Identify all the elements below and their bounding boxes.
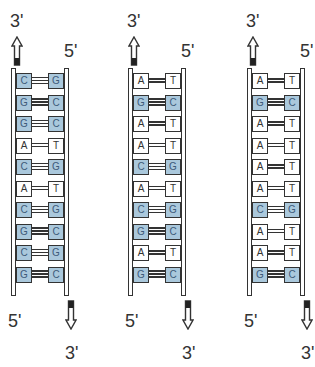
base-pair-row: GC — [16, 116, 64, 132]
triple-hydrogen-bond — [149, 206, 165, 214]
base-pair-row: GC — [133, 95, 181, 111]
base-pair-row: CG — [133, 159, 181, 175]
base-right: C — [48, 224, 64, 240]
base-left: C — [252, 202, 268, 218]
bottom-left-end-label: 5' — [244, 312, 257, 330]
base-pair-row: AT — [133, 245, 181, 261]
base-pair-row: AT — [252, 159, 300, 175]
double-hydrogen-bond — [268, 250, 284, 258]
base-right: T — [284, 159, 300, 175]
base-left: A — [252, 73, 268, 89]
base-left: C — [16, 202, 32, 218]
double-hydrogen-bond — [149, 143, 165, 151]
base-pair-row: CG — [16, 245, 64, 261]
double-hydrogen-bond — [268, 164, 284, 172]
triple-hydrogen-bond — [32, 77, 48, 85]
base-left: A — [252, 181, 268, 197]
base-pair-row: CG — [16, 202, 64, 218]
base-left: G — [16, 267, 32, 283]
base-pair-row: AT — [133, 181, 181, 197]
base-pairs: CGGCGCATCGATCGGCCGGC — [16, 73, 64, 288]
triple-hydrogen-bond — [32, 163, 48, 171]
base-pair-row: AT — [133, 73, 181, 89]
base-left: A — [252, 138, 268, 154]
base-right: C — [284, 267, 300, 283]
base-pair-row: AT — [252, 73, 300, 89]
triple-hydrogen-bond — [268, 98, 284, 106]
triple-hydrogen-bond — [268, 206, 284, 214]
base-pairs: ATGCATATATATCGATATGC — [252, 73, 300, 288]
triple-hydrogen-bond — [149, 227, 165, 235]
base-left: G — [133, 267, 149, 283]
base-left: A — [133, 116, 149, 132]
double-hydrogen-bond — [268, 143, 284, 151]
triple-hydrogen-bond — [149, 98, 165, 106]
base-left: A — [133, 73, 149, 89]
base-right: G — [165, 159, 181, 175]
down-arrow-icon — [65, 300, 77, 330]
base-pair-row: GC — [252, 267, 300, 283]
triple-hydrogen-bond — [268, 270, 284, 278]
base-right: T — [284, 224, 300, 240]
base-right: G — [48, 245, 64, 261]
base-left: C — [133, 202, 149, 218]
right-backbone — [64, 68, 69, 296]
base-right: T — [165, 138, 181, 154]
double-hydrogen-bond — [32, 143, 48, 151]
base-right: G — [48, 73, 64, 89]
base-left: A — [133, 245, 149, 261]
base-right: T — [165, 181, 181, 197]
base-right: T — [284, 138, 300, 154]
base-pair-row: GC — [252, 95, 300, 111]
base-right: T — [165, 116, 181, 132]
right-backbone — [181, 68, 186, 296]
double-hydrogen-bond — [149, 186, 165, 194]
base-left: A — [133, 138, 149, 154]
base-pair-row: GC — [133, 224, 181, 240]
top-left-end-label: 3' — [246, 12, 259, 30]
base-pair-row: AT — [133, 138, 181, 154]
base-right: C — [48, 116, 64, 132]
base-right: T — [284, 73, 300, 89]
base-right: C — [165, 224, 181, 240]
base-right: T — [165, 245, 181, 261]
base-left: G — [16, 95, 32, 111]
base-pair-row: CG — [16, 73, 64, 89]
top-right-end-label: 5' — [181, 42, 194, 60]
down-arrow-icon — [182, 300, 194, 330]
base-right: T — [48, 181, 64, 197]
base-left: C — [16, 159, 32, 175]
base-pair-row: AT — [252, 245, 300, 261]
base-pair-row: GC — [16, 224, 64, 240]
top-left-end-label: 3' — [10, 12, 23, 30]
base-pair-row: AT — [252, 116, 300, 132]
triple-hydrogen-bond — [149, 163, 165, 171]
bottom-left-end-label: 5' — [125, 312, 138, 330]
triple-hydrogen-bond — [32, 206, 48, 214]
base-left: G — [252, 267, 268, 283]
base-left: A — [133, 181, 149, 197]
base-left: A — [252, 116, 268, 132]
base-left: C — [133, 159, 149, 175]
double-hydrogen-bond — [268, 186, 284, 194]
base-right: G — [165, 202, 181, 218]
up-arrow-icon — [128, 36, 140, 66]
base-left: G — [252, 95, 268, 111]
base-pair-row: GC — [16, 267, 64, 283]
base-pair-row: AT — [252, 224, 300, 240]
double-hydrogen-bond — [268, 229, 284, 237]
base-pair-row: GC — [133, 267, 181, 283]
triple-hydrogen-bond — [32, 270, 48, 278]
double-hydrogen-bond — [149, 250, 165, 258]
base-left: A — [252, 224, 268, 240]
dna-strand-3: 3'5'5'3'ATGCATATATATCGATATGC — [244, 0, 315, 367]
base-left: A — [252, 159, 268, 175]
base-right: C — [48, 95, 64, 111]
triple-hydrogen-bond — [32, 120, 48, 128]
dna-strand-2: 3'5'5'3'ATGCATATCGATCGGCATGC — [125, 0, 215, 367]
top-right-end-label: 5' — [64, 42, 77, 60]
base-left: G — [16, 224, 32, 240]
triple-hydrogen-bond — [32, 249, 48, 257]
double-hydrogen-bond — [268, 121, 284, 129]
triple-hydrogen-bond — [32, 227, 48, 235]
